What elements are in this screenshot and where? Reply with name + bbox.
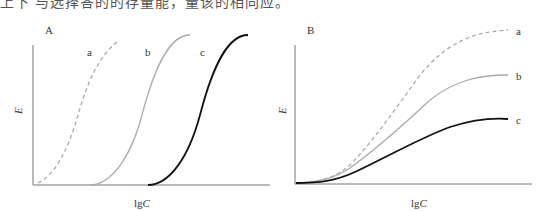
panel-a: A a b c E lgC [12, 24, 270, 209]
x-axis-label: lgC [134, 197, 151, 209]
series-label-c: c [516, 114, 521, 126]
x-axis-label: lgC [411, 197, 428, 209]
series-a-line [38, 42, 117, 183]
panel-label: B [307, 24, 314, 36]
y-axis-label: E [12, 107, 24, 115]
series-c-line [296, 119, 508, 183]
series-b-line [90, 35, 190, 185]
series-a-line [296, 30, 508, 183]
series-label-b: b [145, 46, 151, 58]
y-axis-label: E [276, 107, 288, 115]
series-label-a: a [87, 46, 92, 58]
series-label-c: c [200, 46, 205, 58]
chart-canvas: A a b c E lgC B a b c E lgC [0, 0, 542, 211]
panel-b: B a b c E lgC [276, 24, 532, 209]
series-b-line [296, 75, 508, 183]
series-label-a: a [516, 25, 521, 37]
panel-label: A [45, 24, 53, 36]
series-label-b: b [516, 70, 522, 82]
